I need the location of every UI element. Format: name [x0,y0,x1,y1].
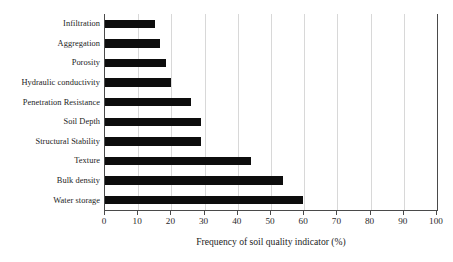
x-tick-mark [336,211,337,215]
bar-slot [105,132,437,152]
bars-container [105,14,437,210]
y-axis-category-labels: InfiltrationAggregationPorosityHydraulic… [0,14,102,210]
y-axis-label-text: Water storage [53,196,100,205]
y-axis-label-text: Bulk density [57,176,100,185]
y-axis-label-text: Structural Stability [35,137,100,146]
x-tick-mark [104,211,105,215]
x-tick-label: 90 [398,216,407,226]
bar [105,20,155,29]
x-tick-label: 30 [199,216,208,226]
y-axis-label: Texture [74,151,100,171]
bar [105,196,303,205]
x-tick-label: 100 [429,216,443,226]
x-tick-mark [170,211,171,215]
y-axis-label-text: Porosity [72,58,100,67]
bar [105,157,251,166]
x-tick-label: 0 [102,216,107,226]
bar-slot [105,53,437,73]
bar [105,78,171,87]
y-axis-label-text: Infiltration [63,19,100,28]
x-tick-mark [270,211,271,215]
bar-slot [105,112,437,132]
x-axis-ticks: 0102030405060708090100 [104,211,438,233]
y-axis-label: Aggregation [58,34,100,54]
bar [105,118,201,127]
x-tick-label: 40 [232,216,241,226]
x-tick-mark [204,211,205,215]
bar-slot [105,190,437,210]
x-tick-label: 60 [299,216,308,226]
bar [105,137,201,146]
y-axis-label: Porosity [72,53,100,73]
plot-area [104,14,438,211]
x-tick-mark [370,211,371,215]
y-axis-label-text: Aggregation [58,39,100,48]
x-tick-mark [403,211,404,215]
y-axis-label: Infiltration [63,14,100,34]
x-tick-mark [303,211,304,215]
bar [105,39,160,48]
x-tick-mark [436,211,437,215]
y-axis-label: Soil Depth [63,112,100,132]
bar [105,59,166,68]
bar-slot [105,14,437,34]
bar-slot [105,73,437,93]
y-axis-label: Bulk density [57,171,100,191]
bar-slot [105,92,437,112]
y-axis-label-text: Hydraulic conductivity [21,78,100,87]
y-axis-label-text: Penetration Resistance [23,98,100,107]
bar [105,176,283,185]
y-axis-label: Structural Stability [35,132,100,152]
x-axis-title: Frequency of soil quality indicator (%) [104,236,438,247]
y-axis-label-text: Texture [74,156,100,165]
y-axis-label-text: Soil Depth [63,117,100,126]
x-tick-mark [237,211,238,215]
bar-slot [105,34,437,54]
bar [105,98,191,107]
bar-slot [105,171,437,191]
y-axis-label: Penetration Resistance [23,92,100,112]
x-tick-label: 80 [365,216,374,226]
x-tick-label: 20 [166,216,175,226]
y-axis-label: Water storage [53,190,100,210]
x-tick-label: 50 [265,216,274,226]
x-tick-mark [137,211,138,215]
x-tick-label: 10 [133,216,142,226]
bar-slot [105,151,437,171]
bar-chart-figure: InfiltrationAggregationPorosityHydraulic… [0,0,453,262]
y-axis-label: Hydraulic conductivity [21,73,100,93]
x-tick-label: 70 [332,216,341,226]
